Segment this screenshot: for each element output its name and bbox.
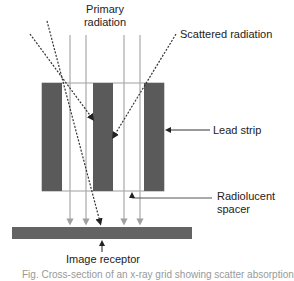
image-receptor-label: Image receptor — [66, 253, 140, 266]
lead-strip-label: Lead strip — [213, 124, 261, 137]
primary-label-line2: radiation — [82, 16, 128, 29]
spacer-label-line2: spacer — [217, 203, 275, 216]
primary-label-line1: Primary — [82, 3, 128, 16]
radiolucent-spacer-label: Radiolucent spacer — [217, 190, 275, 216]
lead-strip-3 — [144, 83, 164, 191]
spacer-label-line1: Radiolucent — [217, 190, 275, 203]
scattered-radiation-label: Scattered radiation — [180, 28, 272, 41]
spacer-pointer — [132, 197, 212, 198]
figure-caption-truncated: Fig. Cross-section of an x-ray grid show… — [22, 268, 294, 281]
primary-radiation-label: Primary radiation — [82, 3, 128, 29]
image-receptor — [12, 227, 192, 239]
lead-strip-1 — [42, 83, 62, 191]
lead-strip-2 — [93, 83, 113, 191]
